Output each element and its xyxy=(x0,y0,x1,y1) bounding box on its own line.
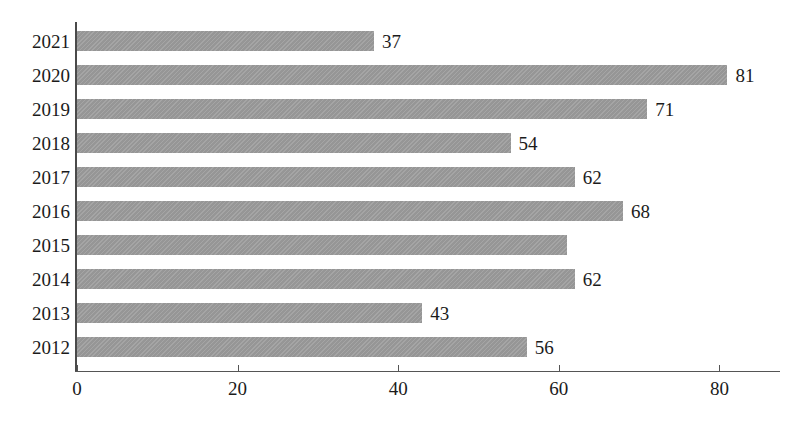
bar xyxy=(77,65,727,85)
bar xyxy=(77,133,511,153)
bar xyxy=(77,31,374,51)
x-axis-tick-label: 60 xyxy=(529,378,589,400)
y-axis-tick-label: 2016 xyxy=(0,202,70,222)
y-axis-tick-label: 2012 xyxy=(0,338,70,358)
bar xyxy=(77,269,575,289)
bar xyxy=(77,99,647,119)
plot-area: 2021202020192018201720162015201420132012… xyxy=(0,0,787,437)
y-axis-tick-label: 2018 xyxy=(0,134,70,154)
x-axis-tick-mark xyxy=(238,365,239,372)
x-axis-tick-mark xyxy=(559,365,560,372)
bar xyxy=(77,303,422,323)
bar-chart: 2021202020192018201720162015201420132012… xyxy=(0,0,787,437)
bar xyxy=(77,235,567,255)
bar-value-label: 62 xyxy=(583,168,602,188)
bar-value-label: 56 xyxy=(535,338,554,358)
x-axis-tick-label: 40 xyxy=(368,378,428,400)
bar-value-label: 62 xyxy=(583,270,602,290)
x-axis-tick-mark xyxy=(719,365,720,372)
bar xyxy=(77,167,575,187)
x-axis-tick-mark xyxy=(398,365,399,372)
y-axis-tick-label: 2021 xyxy=(0,32,70,52)
y-axis-tick-label: 2017 xyxy=(0,168,70,188)
y-axis-tick-label: 2019 xyxy=(0,100,70,120)
bar-value-label: 71 xyxy=(655,100,674,120)
x-axis-tick-mark xyxy=(77,365,78,372)
x-axis-tick-label: 20 xyxy=(208,378,268,400)
x-axis-tick-label: 80 xyxy=(689,378,749,400)
bar-value-label: 37 xyxy=(382,32,401,52)
bar xyxy=(77,337,527,357)
y-axis-tick-label: 2020 xyxy=(0,66,70,86)
bar-value-label: 81 xyxy=(735,66,754,86)
bar-value-label: 54 xyxy=(519,134,538,154)
x-axis-tick-label: 0 xyxy=(47,378,107,400)
x-axis-line xyxy=(75,371,780,372)
y-axis-tick-label: 2015 xyxy=(0,236,70,256)
y-axis-tick-label: 2013 xyxy=(0,304,70,324)
bar-value-label: 43 xyxy=(430,304,449,324)
bar-value-label: 68 xyxy=(631,202,650,222)
y-axis-tick-label: 2014 xyxy=(0,270,70,290)
bar xyxy=(77,201,623,221)
